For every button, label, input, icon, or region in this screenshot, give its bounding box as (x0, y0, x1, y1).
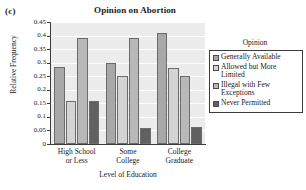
legend-item[interactable]: Never Permitted (213, 99, 300, 108)
legend-swatch-icon (213, 65, 219, 71)
bar (106, 63, 117, 144)
legend-item-label-line: Never Permitted (221, 99, 270, 108)
legend-item-label: Generally Available (221, 53, 281, 62)
bar (77, 38, 88, 144)
y-axis-line (50, 22, 51, 145)
y-axis-title: Relative Frequency (9, 15, 18, 115)
x-axis-title: Level of Education (51, 170, 205, 179)
x-axis-line (50, 144, 206, 145)
plot-wrapper (51, 22, 205, 144)
legend-title: Opinion (210, 38, 300, 47)
y-tick-label: 0.05 (6, 127, 46, 134)
gridline (51, 36, 205, 37)
bar (129, 38, 140, 144)
legend-item[interactable]: Generally Available (213, 53, 300, 62)
y-axis-ticks: 00.050.10.150.20.250.30.350.40.45 (0, 0, 46, 190)
bar (140, 128, 151, 144)
legend-item-label: Allowed but MoreLimited (221, 63, 276, 80)
y-tick-label: 0 (6, 141, 46, 148)
legend-item[interactable]: Allowed but MoreLimited (213, 63, 300, 80)
figure: (c) Opinion on Abortion 00.050.10.150.20… (0, 0, 306, 190)
bar (54, 67, 65, 144)
bar (157, 33, 168, 144)
legend-item-label: Illegal with FewExceptions (221, 81, 270, 98)
chart-title: Opinion on Abortion (60, 5, 210, 15)
legend-item-label-line: Generally Available (221, 53, 281, 62)
x-category-label-line: College (148, 147, 210, 156)
legend-swatch-icon (213, 101, 219, 107)
x-category-label-line: Graduate (148, 156, 210, 165)
bar (168, 68, 179, 144)
x-category-label: CollegeGraduate (148, 147, 210, 165)
legend-swatch-icon (213, 55, 219, 61)
bar (66, 101, 77, 144)
legend: Generally AvailableAllowed but MoreLimit… (209, 50, 303, 113)
legend-item[interactable]: Illegal with FewExceptions (213, 81, 300, 98)
bar (89, 101, 100, 144)
legend-item-label-line: Limited (221, 71, 276, 80)
plot-area (51, 22, 205, 144)
bar (117, 76, 128, 144)
legend-item-label: Never Permitted (221, 99, 270, 108)
legend-swatch-icon (213, 83, 219, 89)
gridline (51, 22, 205, 23)
bar (191, 127, 202, 144)
bar (180, 76, 191, 144)
legend-item-label-line: Exceptions (221, 89, 270, 98)
